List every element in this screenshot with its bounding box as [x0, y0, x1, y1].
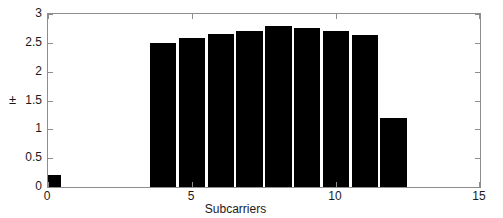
x-axis-tick: [48, 14, 49, 19]
x-axis-tick: [336, 14, 337, 19]
y-axis-tick: [475, 43, 480, 44]
bars-layer: [48, 14, 480, 187]
x-axis-tick: [48, 182, 49, 187]
y-axis-tick-labels: 00.511.522.53: [0, 13, 42, 186]
bar: [323, 31, 349, 187]
x-axis-tick-label: 5: [188, 190, 195, 202]
y-axis-tick-label: 2: [35, 65, 42, 77]
y-axis-tick: [48, 72, 53, 73]
y-axis-tick-label: 0.5: [25, 151, 42, 163]
y-axis-tick: [475, 187, 480, 188]
bar: [150, 43, 176, 187]
y-axis-tick: [48, 43, 53, 44]
x-axis-tick: [336, 182, 337, 187]
y-axis-tick-label: 1: [35, 122, 42, 134]
y-axis-tick-label: 3: [35, 7, 42, 19]
x-axis-tick: [479, 182, 480, 187]
bar: [236, 31, 262, 187]
x-axis-tick: [479, 14, 480, 19]
y-axis-tick-label: 1.5: [25, 94, 42, 106]
y-axis-tick: [475, 158, 480, 159]
x-axis-title-text: Subcarriers: [205, 202, 266, 216]
x-axis-tick-label: 10: [328, 190, 341, 202]
bar: [179, 38, 205, 187]
x-axis-tick: [192, 182, 193, 187]
y-axis-tick: [475, 101, 480, 102]
y-axis-tick: [475, 72, 480, 73]
plot-area: [47, 13, 481, 188]
bar: [208, 34, 234, 187]
bar: [48, 175, 61, 187]
y-axis-tick: [48, 158, 53, 159]
y-axis-tick: [48, 101, 53, 102]
bar: [265, 26, 291, 187]
x-axis-tick-label: 15: [472, 190, 485, 202]
y-axis-tick-label: 2.5: [25, 36, 42, 48]
bar: [294, 28, 320, 187]
bar: [352, 35, 378, 187]
bar: [380, 118, 406, 187]
x-axis-title: Subcarriers: [0, 203, 503, 215]
x-axis-tick-label: 0: [44, 190, 51, 202]
figure: ± 00.511.522.53 051015 Subcarriers: [0, 0, 503, 218]
y-axis-tick: [48, 187, 53, 188]
y-axis-tick: [475, 129, 480, 130]
y-axis-tick-label: 0: [35, 180, 42, 192]
y-axis-tick: [48, 129, 53, 130]
x-axis-tick: [192, 14, 193, 19]
